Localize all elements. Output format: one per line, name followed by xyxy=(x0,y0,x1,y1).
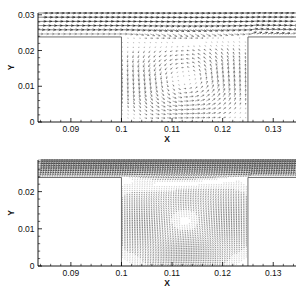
arrow-group-light xyxy=(122,38,246,123)
y-tick-label: 0.01 xyxy=(18,81,35,91)
x-axis-title: X xyxy=(164,278,170,288)
x-tick-label: 0.12 xyxy=(214,268,231,278)
x-tick-label: 0.09 xyxy=(63,124,80,134)
plot-area-bottom: 0.090.10.110.120.1300.010.02XY xyxy=(0,144,302,288)
arrow-group-dark xyxy=(38,12,302,34)
arrow-group-dark xyxy=(38,159,301,176)
x-axis-title: X xyxy=(164,134,170,144)
right-solid-block xyxy=(248,38,296,122)
left-solid-block xyxy=(38,38,121,122)
x-tick-label: 0.12 xyxy=(214,124,231,134)
y-tick-label: 0.01 xyxy=(18,224,35,234)
panel-bottom-fine: 0.090.10.110.120.1300.010.02XY xyxy=(0,144,302,288)
x-tick-label: 0.11 xyxy=(164,124,180,134)
x-tick-label: 0.11 xyxy=(164,268,180,278)
y-axis-title: Y xyxy=(6,210,16,216)
x-tick-label: 0.13 xyxy=(265,268,282,278)
plot-area-top: 0.090.10.110.120.1300.010.020.03XY xyxy=(0,0,302,144)
figure-vector-fields: 0.090.10.110.120.1300.010.020.03XY 0.090… xyxy=(0,0,302,288)
y-tick-label: 0 xyxy=(30,261,35,271)
left-solid-block xyxy=(38,178,121,266)
y-tick-label: 0.03 xyxy=(18,10,35,20)
y-tick-label: 0 xyxy=(30,117,35,127)
x-tick-label: 0.09 xyxy=(63,268,80,278)
x-tick-label: 0.1 xyxy=(116,268,128,278)
y-tick-label: 0.02 xyxy=(18,46,35,56)
y-tick-label: 0.02 xyxy=(18,187,35,197)
x-tick-label: 0.1 xyxy=(116,124,128,134)
right-solid-block xyxy=(248,178,296,266)
y-axis-title: Y xyxy=(6,64,16,70)
panel-top-coarse: 0.090.10.110.120.1300.010.020.03XY xyxy=(0,0,302,144)
x-tick-label: 0.13 xyxy=(265,124,282,134)
